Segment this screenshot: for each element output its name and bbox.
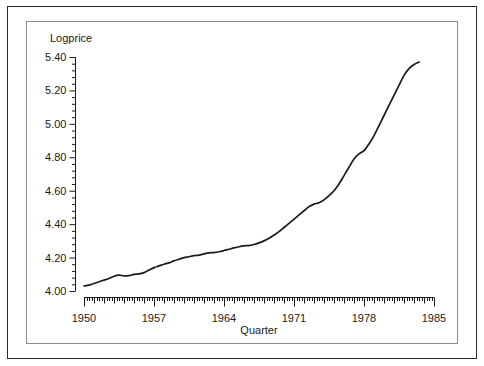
x-axis-tick-labels: 195019571964197119781985 — [72, 312, 446, 324]
x-axis-tick-label: 1978 — [352, 312, 376, 324]
y-axis-minor-ticks — [72, 64, 76, 285]
series-line-logprice — [84, 62, 419, 286]
x-axis-minor-ticks — [88, 298, 433, 304]
x-axis-tick-label: 1957 — [142, 312, 166, 324]
y-axis-tick-label: 5.00 — [45, 118, 66, 130]
chart-figure: Logprice 4.004.204.404.604.805.005.205.4… — [0, 0, 484, 366]
x-axis-tick-label: 1964 — [212, 312, 236, 324]
y-axis-tick-label: 4.20 — [45, 252, 66, 264]
y-axis-tick-label: 4.80 — [45, 151, 66, 163]
x-axis-title: Quarter — [240, 324, 278, 336]
y-axis-tick-label: 4.40 — [45, 218, 66, 230]
x-axis-tick-label: 1985 — [422, 312, 446, 324]
x-axis-tick-label: 1950 — [72, 312, 96, 324]
y-axis-ticks — [70, 58, 76, 292]
y-axis-tick-labels: 4.004.204.404.604.805.005.205.40 — [45, 51, 66, 297]
y-axis-tick-label: 4.00 — [45, 285, 66, 297]
y-axis-tick-label: 5.40 — [45, 51, 66, 63]
x-axis-tick-label: 1971 — [282, 312, 306, 324]
line-chart-plot: Logprice 4.004.204.404.604.805.005.205.4… — [26, 21, 458, 344]
y-axis-tick-label: 4.60 — [45, 185, 66, 197]
y-axis-tick-label: 5.20 — [45, 84, 66, 96]
y-axis-title: Logprice — [50, 32, 92, 44]
